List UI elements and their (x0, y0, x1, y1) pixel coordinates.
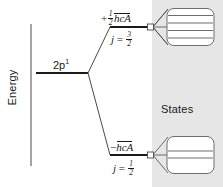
lower-states-box (167, 137, 214, 174)
upper-j-letter: j (111, 33, 114, 45)
upper-level-energy-label: +12hcA (101, 10, 131, 26)
lower-split-connector (88, 73, 110, 155)
upper-states-box (167, 9, 214, 46)
energy-level-diagram: Energy States 2p1 +12hcA j = 32 −hcA j =… (0, 0, 223, 187)
upper-energy-fraction: 12 (108, 10, 114, 26)
ground-term-symbol: 2p (53, 59, 65, 71)
lower-callout-anchor-square (148, 152, 154, 158)
lower-level-j-label: j = 12 (113, 160, 135, 176)
upper-j-equals: = (117, 33, 123, 45)
states-label: States (161, 104, 193, 115)
diagram-canvas (0, 0, 223, 187)
lower-j-letter: j (113, 162, 116, 174)
upper-energy-sign: + (101, 12, 107, 24)
upper-split-connector (88, 27, 110, 73)
upper-energy-symbol: hcA (114, 13, 131, 24)
upper-callout-anchor-square (148, 24, 154, 30)
ground-level-label: 2p1 (53, 58, 69, 71)
lower-j-equals: = (119, 162, 125, 174)
upper-j-fraction: 32 (126, 31, 132, 47)
energy-axis-label: Energy (7, 58, 18, 118)
lower-energy-symbol: hcA (116, 142, 133, 153)
lower-j-fraction: 12 (128, 160, 134, 176)
lower-level-energy-label: −hcA (110, 142, 133, 153)
upper-level-j-label: j = 32 (111, 31, 133, 47)
ground-term-superscript: 1 (65, 58, 69, 65)
